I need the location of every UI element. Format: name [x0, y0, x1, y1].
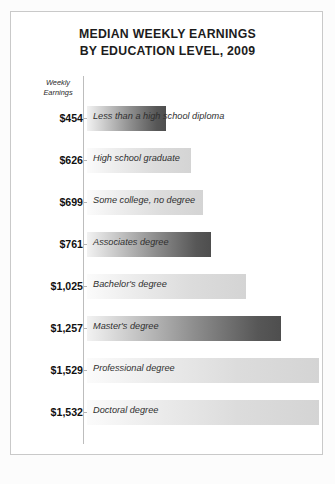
bar-category-label: Associates degree	[93, 237, 169, 248]
value-axis-header: Weekly Earnings	[29, 78, 87, 97]
bar-value-label: $1,529	[19, 364, 83, 376]
bar-row: $1,529Professional degree	[11, 352, 324, 394]
bar-category-label: Bachelor's degree	[93, 279, 167, 290]
bar-value-label: $699	[19, 196, 83, 208]
bar-row: $454Less than a high school diploma	[11, 100, 324, 142]
bar-row: $761Associates degree	[11, 226, 324, 268]
chart-title-line-1: MEDIAN WEEKLY EARNINGS	[11, 26, 324, 43]
chart-panel: MEDIAN WEEKLY EARNINGS BY EDUCATION LEVE…	[10, 11, 323, 455]
bar-row: $1,257Master's degree	[11, 310, 324, 352]
bar-rows: $454Less than a high school diploma$626H…	[11, 100, 324, 436]
value-axis-header-line-1: Weekly	[29, 78, 87, 88]
bar-category-label: Less than a high school diploma	[93, 111, 224, 122]
page-canvas: MEDIAN WEEKLY EARNINGS BY EDUCATION LEVE…	[0, 0, 335, 484]
bar-row: $626High school graduate	[11, 142, 324, 184]
chart-panel-inner: MEDIAN WEEKLY EARNINGS BY EDUCATION LEVE…	[11, 12, 322, 454]
bar-category-label: Master's degree	[93, 321, 159, 332]
bar-value-label: $1,025	[19, 280, 83, 292]
chart-title-line-2: BY EDUCATION LEVEL, 2009	[11, 43, 324, 60]
chart-title: MEDIAN WEEKLY EARNINGS BY EDUCATION LEVE…	[11, 26, 324, 59]
bar-value-label: $1,532	[19, 406, 83, 418]
bar-category-label: High school graduate	[93, 153, 180, 164]
bar-value-label: $626	[19, 154, 83, 166]
bar-row: $699Some college, no degree	[11, 184, 324, 226]
bar-category-label: Professional degree	[93, 363, 175, 374]
bar-value-label: $454	[19, 112, 83, 124]
bar-category-label: Some college, no degree	[93, 195, 195, 206]
bar-value-label: $761	[19, 238, 83, 250]
bar-row: $1,532Doctoral degree	[11, 394, 324, 436]
bar-row: $1,025Bachelor's degree	[11, 268, 324, 310]
bar-value-label: $1,257	[19, 322, 83, 334]
cutoff-caption-strip	[12, 478, 322, 484]
bar-category-label: Doctoral degree	[93, 405, 158, 416]
value-axis-header-line-2: Earnings	[29, 88, 87, 98]
